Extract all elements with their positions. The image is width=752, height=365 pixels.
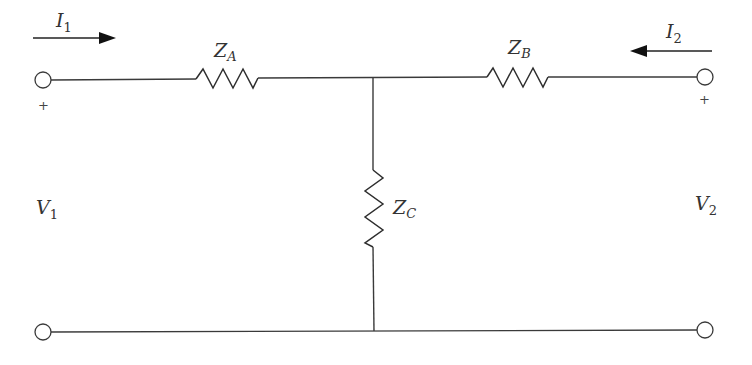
shunt-wire-bottom (373, 247, 374, 331)
top-wire-middle (258, 77, 487, 78)
current-i1-label: I1 (55, 9, 72, 35)
impedance-zc-label: ZC (392, 196, 416, 221)
voltage-v1-label: V1 (36, 196, 58, 222)
impedance-za-label: ZA (213, 39, 237, 64)
impedance-zb-label: ZB (507, 36, 531, 61)
resistor-zb-icon (487, 68, 548, 87)
resistor-zc-icon (365, 170, 383, 247)
terminal-right-top-icon (697, 69, 713, 85)
resistor-za-icon (196, 69, 258, 88)
t-network-diagram: I1 I2 ZA ZB ZC + + V1 V2 (0, 0, 752, 365)
terminal-right-bottom-icon (697, 322, 713, 338)
current-i1-arrow-icon (33, 32, 116, 44)
polarity-right-plus: + (699, 92, 710, 107)
polarity-left-plus: + (38, 98, 49, 113)
terminal-left-top-icon (35, 72, 51, 88)
top-wire-left (51, 79, 196, 80)
current-i2-label: I2 (665, 20, 682, 46)
current-i2-arrow-icon (630, 45, 712, 57)
terminal-left-bottom-icon (35, 324, 51, 340)
voltage-v2-label: V2 (695, 192, 717, 218)
